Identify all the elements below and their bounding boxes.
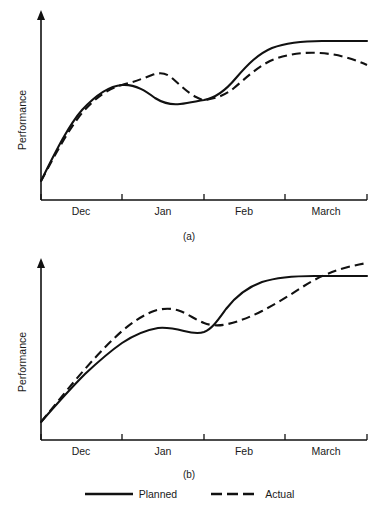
chart-panel-b: Dec Jan Feb March Performance (b) (0, 250, 379, 505)
chart-b-series-planned (41, 276, 367, 422)
chart-a-xtick-dec: Dec (72, 205, 91, 217)
legend-entry-planned: Planned (85, 489, 178, 500)
chart-a-series-planned (41, 41, 367, 181)
chart-b-x-axis (41, 434, 367, 440)
legend-swatch-actual (211, 489, 259, 499)
chart-b-xtick-march: March (311, 445, 340, 457)
chart-a-y-axis (37, 10, 45, 200)
chart-panel-a: Dec Jan Feb March Performance (a) (0, 0, 379, 250)
legend-swatch-planned (85, 489, 133, 499)
chart-a-series-actual (41, 53, 367, 181)
chart-a-caption: (a) (183, 231, 195, 242)
legend-entry-actual: Actual (211, 489, 294, 500)
chart-b-series-actual (41, 263, 367, 422)
legend-label-actual: Actual (265, 489, 294, 500)
chart-b-xtick-jan: Jan (155, 445, 172, 457)
chart-a-x-axis (41, 194, 367, 200)
chart-legend: Planned Actual (0, 483, 379, 505)
chart-a-y-axis-title: Performance (16, 90, 28, 150)
chart-b-xtick-feb: Feb (235, 445, 253, 457)
chart-b-y-axis-title: Performance (16, 332, 28, 392)
legend-label-planned: Planned (139, 489, 178, 500)
chart-b-xtick-dec: Dec (72, 445, 91, 457)
chart-a-svg: Dec Jan Feb March Performance (a) (0, 0, 379, 250)
chart-a-xtick-jan: Jan (155, 205, 172, 217)
chart-b-caption: (b) (183, 469, 195, 480)
chart-b-y-axis (37, 258, 45, 440)
chart-b-svg: Dec Jan Feb March Performance (b) (0, 250, 379, 505)
chart-a-xtick-march: March (311, 205, 340, 217)
chart-a-xtick-feb: Feb (235, 205, 253, 217)
